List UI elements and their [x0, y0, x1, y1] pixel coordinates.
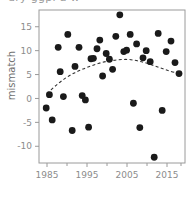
data-point [69, 127, 76, 134]
y-tick-label: -10 [17, 141, 32, 151]
data-point [155, 30, 162, 37]
x-axis-ticks: 1985199520052015 [36, 163, 181, 180]
plot-canvas: 1985199520052015 151050-5-10 [0, 0, 195, 207]
data-point [94, 45, 101, 52]
data-point [147, 58, 154, 65]
data-point [49, 117, 56, 124]
data-point [99, 73, 106, 80]
data-point [136, 124, 143, 131]
data-point [76, 44, 83, 51]
y-tick-label: 10 [21, 46, 33, 56]
data-point [106, 56, 113, 63]
data-point [57, 68, 64, 75]
data-point [43, 105, 50, 112]
data-point [72, 63, 79, 70]
data-point [172, 59, 179, 66]
x-tick-label: 1995 [76, 170, 99, 180]
data-point [123, 47, 130, 54]
x-tick-label: 1985 [36, 170, 59, 180]
plot-frame [39, 10, 185, 163]
scatter-points [43, 11, 183, 160]
data-point [46, 91, 53, 98]
trend-curve [47, 59, 180, 93]
data-point [133, 41, 140, 48]
data-point [159, 107, 166, 114]
data-point [163, 48, 170, 55]
y-axis-ticks: 151050-5-10 [17, 22, 39, 152]
data-point [55, 44, 62, 51]
y-tick-label: 5 [26, 70, 32, 80]
data-point [116, 11, 123, 18]
data-point [85, 124, 92, 131]
data-point [140, 54, 147, 61]
data-point [64, 31, 71, 38]
y-tick-label: -5 [23, 118, 32, 128]
data-point [82, 96, 89, 103]
data-point [143, 47, 150, 54]
data-point [112, 33, 119, 40]
x-tick-label: 2005 [116, 170, 139, 180]
scatter-plot-figure: dry ggpl a w mismatch 1985199520052015 1… [0, 0, 195, 207]
x-tick-label: 2015 [156, 170, 179, 180]
data-point [90, 55, 97, 62]
data-point [151, 154, 158, 161]
data-point [109, 66, 116, 73]
data-point [96, 37, 103, 44]
data-point [60, 93, 67, 100]
data-point [168, 38, 175, 45]
data-point [103, 50, 110, 57]
data-point [176, 70, 183, 77]
data-point [127, 31, 134, 38]
data-point [130, 100, 137, 107]
trend-line-dashed [47, 59, 180, 93]
y-tick-label: 15 [21, 22, 32, 32]
y-tick-label: 0 [26, 94, 32, 104]
